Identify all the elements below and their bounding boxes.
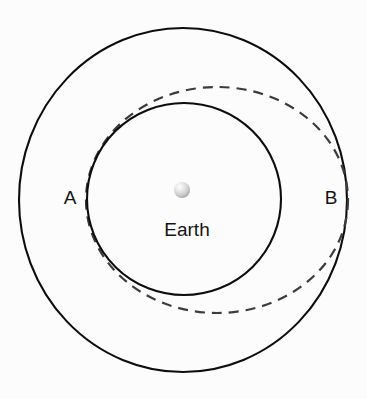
label-earth: Earth	[164, 219, 209, 240]
orbit-diagram-canvas: A B Earth	[0, 0, 367, 399]
label-point-b: B	[325, 187, 338, 208]
inner-circular-orbit	[87, 103, 281, 295]
orbit-diagram: A B Earth	[0, 0, 367, 399]
label-point-a: A	[64, 187, 77, 208]
transfer-ellipse-orbit	[86, 87, 348, 313]
earth-sphere-icon	[174, 182, 190, 198]
